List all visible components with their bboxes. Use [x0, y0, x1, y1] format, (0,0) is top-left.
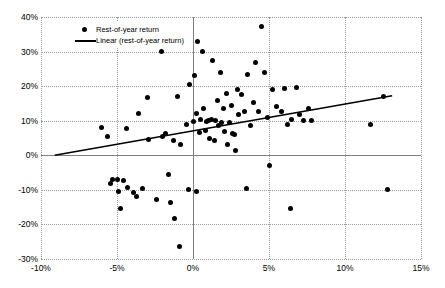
gridline-vertical [421, 17, 422, 259]
x-tick-label: 5% [246, 263, 292, 273]
x-axis-ticks: -10%-5%0%5%10%15% [41, 263, 421, 277]
gridline-horizontal [41, 259, 421, 260]
legend-item-scatter: Rest-of-year return [74, 24, 184, 35]
chart-legend: Rest-of-year return Linear (rest-of-year… [72, 22, 188, 48]
legend-label-scatter: Rest-of-year return [96, 24, 159, 35]
legend-dot-icon [74, 24, 96, 35]
x-tick-label: 15% [398, 263, 444, 273]
y-tick-label: -10% [2, 185, 38, 195]
y-tick-label: -20% [2, 219, 38, 229]
y-tick-label: 0% [2, 150, 38, 160]
x-tick-label: 0% [170, 263, 216, 273]
y-tick-label: 40% [2, 12, 38, 22]
x-tick-label: 10% [322, 263, 368, 273]
plot-area [41, 17, 421, 259]
y-axis-ticks: 40%30%20%10%0%-10%-20%-30% [0, 17, 38, 259]
y-tick-label: 20% [2, 81, 38, 91]
scatter-chart: 40%30%20%10%0%-10%-20%-30% -10%-5%0%5%10… [0, 0, 445, 288]
legend-label-trend: Linear (rest-of-year return) [96, 35, 184, 46]
y-tick-label: 30% [2, 47, 38, 57]
trend-line [41, 17, 421, 259]
legend-line-icon [74, 35, 96, 46]
x-tick-label: -10% [18, 263, 64, 273]
legend-item-trend: Linear (rest-of-year return) [74, 35, 184, 46]
y-tick-label: 10% [2, 116, 38, 126]
x-tick-label: -5% [94, 263, 140, 273]
